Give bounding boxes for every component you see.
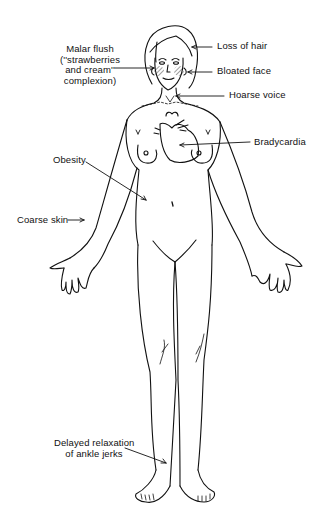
label-hoarse-voice: Hoarse voice bbox=[229, 90, 286, 101]
leader-lines bbox=[68, 45, 250, 463]
label-bloated-face: Bloated face bbox=[217, 66, 271, 77]
label-ankle-jerks: Delayed relaxation of ankle jerks bbox=[54, 438, 134, 459]
body-outline-drawing bbox=[0, 0, 316, 524]
legs bbox=[138, 245, 212, 486]
face bbox=[152, 58, 187, 90]
neck-shoulders bbox=[127, 88, 220, 122]
feet bbox=[136, 470, 215, 502]
malar-flush-right bbox=[174, 66, 184, 76]
label-coarse-skin: Coarse skin bbox=[17, 215, 68, 226]
torso bbox=[126, 120, 220, 262]
left-arm bbox=[50, 120, 137, 294]
label-loss-of-hair: Loss of hair bbox=[217, 41, 267, 52]
hypothyroid-signs-figure: Malar flush (''strawberries and cream'' … bbox=[0, 0, 316, 524]
label-obesity: Obesity bbox=[53, 155, 86, 166]
label-bradycardia: Bradycardia bbox=[254, 137, 306, 148]
malar-flush-left bbox=[154, 66, 164, 76]
label-malar-flush: Malar flush (''strawberries and cream'' … bbox=[60, 44, 120, 86]
leader-bradycardia bbox=[180, 142, 250, 145]
right-arm bbox=[208, 122, 302, 292]
